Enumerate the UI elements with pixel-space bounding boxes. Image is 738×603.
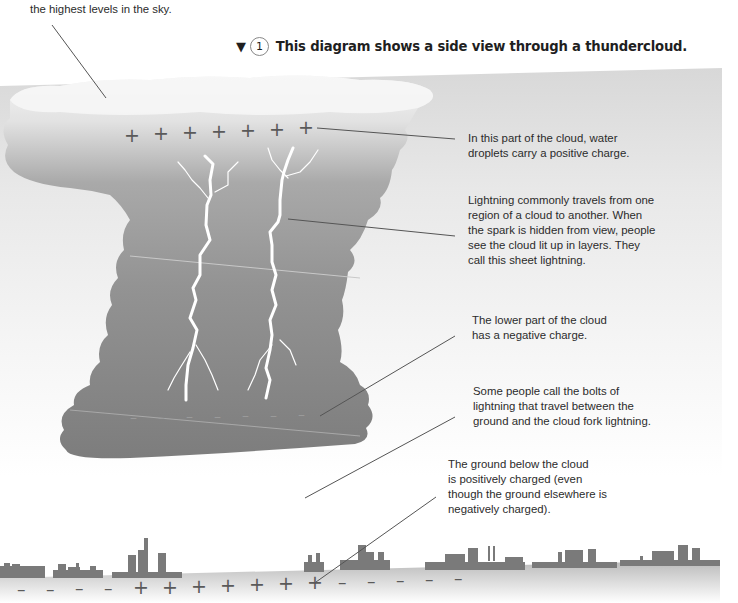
annotation-line: Lightning commonly travels from one: [468, 193, 655, 208]
positive-charge-symbol: +: [133, 578, 149, 597]
positive-charge-symbol: +: [153, 124, 169, 143]
figure-number-badge: 1: [250, 37, 269, 56]
negative-charge-symbol: –: [130, 410, 137, 424]
negative-charge-symbol: –: [46, 581, 55, 598]
triangle-marker-icon: ▼: [236, 39, 246, 54]
negative-charge-symbol: –: [17, 581, 26, 598]
top-note-label: the highest levels in the sky.: [30, 2, 172, 17]
annotation-line: The ground below the cloud: [448, 457, 607, 472]
annotation-line: though the ground elsewhere is: [448, 487, 607, 502]
negative-charge-symbol: –: [396, 572, 405, 589]
positive-charge-symbol: +: [162, 578, 178, 597]
annotation-line: ground and the cloud fork lightning.: [473, 414, 651, 429]
annotation-ground-charge: The ground below the cloud is positively…: [448, 457, 607, 517]
negative-charge-symbol: –: [158, 410, 165, 424]
negative-charge-symbol: –: [242, 408, 249, 422]
negative-charge-symbol: –: [338, 574, 347, 591]
negative-charge-symbol: –: [104, 580, 113, 597]
diagram-caption: ▼ 1 This diagram shows a side view throu…: [236, 37, 687, 56]
positive-charge-symbol: +: [249, 575, 265, 594]
negative-charge-symbol: –: [75, 580, 84, 597]
annotation-line: droplets carry a positive charge.: [468, 146, 629, 161]
caption-text: This diagram shows a side view through a…: [276, 39, 687, 54]
positive-charge-symbol: +: [269, 120, 285, 139]
thundercloud-diagram: [0, 0, 738, 603]
positive-charge-symbol: +: [211, 122, 227, 141]
positive-charge-symbol: +: [124, 126, 140, 145]
negative-charge-symbol: –: [454, 570, 463, 587]
annotation-line: see the cloud lit up in layers. They: [468, 238, 655, 253]
negative-charge-symbol: –: [298, 407, 305, 421]
positive-charge-symbol: +: [220, 576, 236, 595]
annotation-line: lightning that travel between the: [473, 399, 651, 414]
negative-charge-symbol: –: [214, 409, 221, 423]
annotation-line: Some people call the bolts of: [473, 384, 651, 399]
annotation-positive-charge: In this part of the cloud, water droplet…: [468, 131, 629, 161]
positive-charge-symbol: +: [182, 123, 198, 142]
annotation-line: call this sheet lightning.: [468, 253, 655, 268]
annotation-line: has a negative charge.: [472, 328, 607, 343]
annotation-line: The lower part of the cloud: [472, 313, 607, 328]
annotation-line: the spark is hidden from view, people: [468, 223, 655, 238]
positive-charge-symbol: +: [307, 573, 323, 592]
annotation-fork-lightning: Some people call the bolts of lightning …: [473, 384, 651, 429]
annotation-negative-charge: The lower part of the cloud has a negati…: [472, 313, 607, 343]
negative-charge-symbol: –: [186, 409, 193, 423]
negative-charge-symbol: –: [425, 571, 434, 588]
positive-charge-symbol: +: [298, 118, 314, 137]
annotation-line: is positively charged (even: [448, 472, 607, 487]
annotation-line: negatively charged).: [448, 502, 607, 517]
negative-charge-symbol: –: [367, 573, 376, 590]
negative-charge-symbol: –: [270, 408, 277, 422]
positive-charge-symbol: +: [191, 577, 207, 596]
annotation-line: In this part of the cloud, water: [468, 131, 629, 146]
annotation-sheet-lightning: Lightning commonly travels from one regi…: [468, 193, 655, 268]
annotation-line: region of a cloud to another. When: [468, 208, 655, 223]
positive-charge-symbol: +: [240, 121, 256, 140]
positive-charge-symbol: +: [278, 574, 294, 593]
